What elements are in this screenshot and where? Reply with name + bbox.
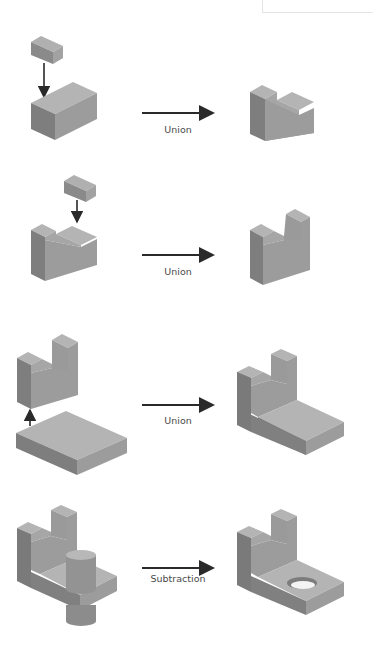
row2-result [250, 209, 310, 285]
row1-input [31, 36, 97, 140]
row2-input [31, 175, 97, 281]
row1-result [250, 85, 314, 141]
row3-result [237, 349, 344, 455]
operation-label-subtraction: Subtraction [133, 573, 223, 584]
operation-label-union-1: Union [133, 124, 223, 135]
row4-result [237, 509, 344, 615]
operation-label-union-2: Union [133, 266, 223, 277]
operation-label-union-3: Union [133, 415, 223, 426]
row3-input [16, 334, 127, 475]
row4-input [17, 505, 117, 626]
